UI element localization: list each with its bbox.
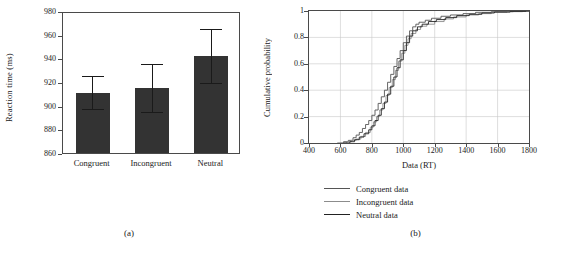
bar-chart-error-bar bbox=[92, 76, 93, 109]
cdf-chart-x-tick-label: 800 bbox=[357, 147, 387, 155]
bar-chart-bar-group bbox=[76, 11, 110, 153]
legend-item: Neutral data bbox=[324, 208, 413, 221]
bar-chart-bar-group bbox=[135, 11, 169, 153]
cdf-chart-y-tick-label: 0.6 bbox=[282, 60, 304, 68]
cdf-chart-y-tick-label: 0.2 bbox=[282, 113, 304, 121]
bar-chart-error-bar-cap bbox=[141, 112, 163, 113]
cdf-chart-x-tick-label: 600 bbox=[325, 147, 355, 155]
legend-label: Neutral data bbox=[356, 210, 398, 220]
bar-chart-error-bar-cap bbox=[82, 109, 104, 110]
bar-chart-error-bar-cap bbox=[200, 29, 222, 30]
cdf-chart-x-axis-label: Data (RT) bbox=[308, 160, 530, 170]
bar-chart-y-tick-label: 960 bbox=[30, 32, 56, 40]
panel-a-caption: (a) bbox=[0, 228, 258, 238]
panel-b-cdf-chart: Cumulative probability 00.20.40.60.81 40… bbox=[258, 0, 573, 260]
bar-chart-y-tick-label: 920 bbox=[30, 79, 56, 87]
cdf-chart-plot-area bbox=[308, 10, 530, 144]
cdf-chart-y-tick-label: 0.8 bbox=[282, 33, 304, 41]
panel-b-caption: (b) bbox=[258, 228, 573, 238]
cdf-chart-x-tick-label: 1200 bbox=[420, 147, 450, 155]
legend-label: Incongruent data bbox=[356, 197, 413, 207]
bar-chart-y-tick-mark bbox=[58, 154, 62, 155]
cdf-chart-x-tick-label: 1800 bbox=[514, 147, 544, 155]
cdf-chart-x-tick-label: 1400 bbox=[451, 147, 481, 155]
cdf-chart-y-tick-label: 1 bbox=[282, 7, 304, 15]
bar-chart-y-tick-label: 940 bbox=[30, 55, 56, 63]
legend-color-swatch bbox=[324, 201, 350, 202]
bar-chart-x-tick-label: Neutral bbox=[170, 158, 250, 168]
bar-chart-error-bar-cap bbox=[141, 64, 163, 65]
bar-chart-error-bar bbox=[211, 29, 212, 83]
bar-chart-error-bar bbox=[152, 64, 153, 111]
cdf-chart-y-axis-label: Cumulative probability bbox=[262, 14, 276, 140]
cdf-chart-series-svg bbox=[309, 11, 529, 143]
legend-item: Congruent data bbox=[324, 182, 413, 195]
bar-chart-y-tick-label: 860 bbox=[30, 150, 56, 158]
bar-chart-plot-area bbox=[62, 12, 240, 154]
cdf-chart-x-tick-label: 1000 bbox=[388, 147, 418, 155]
cdf-chart-y-tick-label: 0 bbox=[282, 139, 304, 147]
panel-a-bar-chart: Reaction time (ms) 860880900920940960980… bbox=[0, 0, 258, 260]
bar-chart-y-tick-label: 880 bbox=[30, 126, 56, 134]
legend-item: Incongruent data bbox=[324, 195, 413, 208]
cdf-chart-line bbox=[344, 11, 529, 143]
legend-color-swatch bbox=[324, 188, 350, 189]
legend-label: Congruent data bbox=[356, 184, 408, 194]
cdf-chart-x-tick-label: 400 bbox=[294, 147, 324, 155]
cdf-chart-legend: Congruent dataIncongruent dataNeutral da… bbox=[324, 182, 413, 221]
bar-chart-y-tick-label: 980 bbox=[30, 8, 56, 16]
bar-chart-error-bar-cap bbox=[200, 83, 222, 84]
cdf-chart-line bbox=[337, 11, 529, 143]
bar-chart-y-tick-label: 900 bbox=[30, 103, 56, 111]
bar-chart-error-bar-cap bbox=[82, 76, 104, 77]
cdf-chart-x-tick-label: 1600 bbox=[483, 147, 513, 155]
legend-color-swatch bbox=[324, 214, 350, 215]
bar-chart-bar-group bbox=[194, 11, 228, 153]
bar-chart-y-axis-label: Reaction time (ms) bbox=[4, 40, 18, 136]
cdf-chart-y-tick-label: 0.4 bbox=[282, 86, 304, 94]
